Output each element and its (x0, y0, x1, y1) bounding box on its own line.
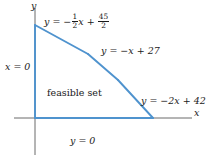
constant-numerator: 45 (98, 13, 109, 21)
constraint-lhs: y (44, 16, 49, 27)
constraint-label-middle: y = −x + 27 (101, 46, 160, 56)
feasible-set-label: feasible set (47, 88, 102, 98)
constraint-minus: − (63, 16, 71, 27)
y-axis-label: y (31, 1, 36, 11)
x-axis-label: x (194, 108, 199, 118)
constraint-boundary-group (35, 25, 153, 118)
constraint-label-horizontal: y = 0 (70, 136, 95, 146)
constraint-label-vertical: x = 0 (5, 62, 30, 72)
constant-denominator: 2 (98, 21, 109, 30)
boundary-segment-middle (88, 54, 118, 80)
constraint-plus: + (87, 16, 95, 27)
constraint-label-upper-left: y=−12x+452 (44, 13, 109, 30)
axes-group (14, 8, 192, 155)
feasible-set-figure: y x y=−12x+452 y = −x + 27 y = −2x + 42 … (0, 0, 212, 160)
coefficient-variable: x (78, 16, 83, 27)
constant-fraction: 452 (98, 13, 109, 30)
constraint-equals: = (52, 16, 60, 27)
constraint-label-lower-right: y = −2x + 42 (141, 96, 206, 106)
